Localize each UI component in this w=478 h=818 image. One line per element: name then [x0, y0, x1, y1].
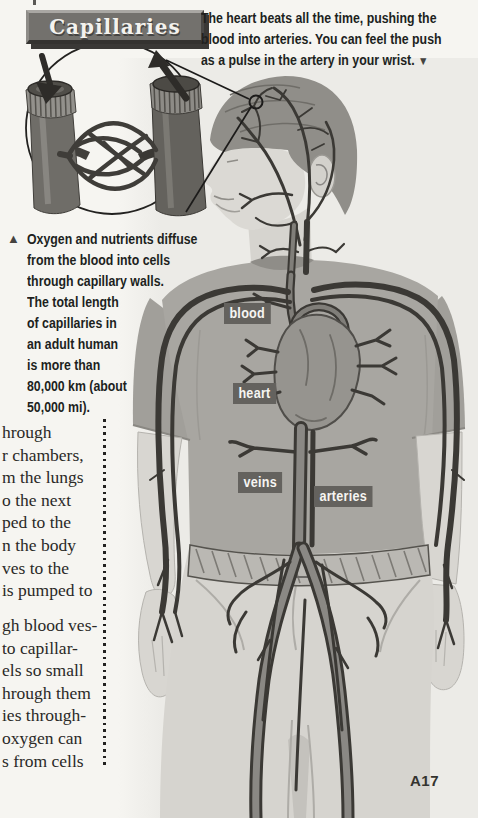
body-text-line: els so small: [2, 659, 97, 682]
capillaries-banner-label: Capillaries: [49, 15, 181, 39]
caption-line: through capillary walls.: [27, 271, 197, 292]
caption-line: as a pulse in the artery in your wrist. …: [201, 50, 442, 72]
cropped-text-remnant: [33, 0, 36, 5]
label-veins: veins: [238, 472, 282, 493]
label-heart: heart: [233, 383, 276, 404]
dotted-divider: [103, 419, 106, 766]
body-text-line: s from cells: [2, 750, 97, 773]
caption-line: an adult human: [27, 334, 197, 355]
body-text-paragraph-2: gh blood ves- to capillar- els so small …: [2, 614, 97, 772]
caption-line: The heart beats all the time, pushing th…: [201, 8, 442, 29]
body-text-line: ies through-: [2, 704, 97, 727]
label-arteries: arteries: [314, 486, 373, 507]
body-text-line: o the next: [2, 489, 92, 512]
body-text-line: n the body: [2, 534, 92, 557]
down-triangle-icon: ▼: [418, 54, 428, 68]
body-text-line: r chambers,: [2, 444, 92, 467]
caption-line: The total length: [27, 292, 197, 313]
body-text-paragraph-1: hrough r chambers, m the lungs o the nex…: [2, 421, 92, 602]
caption-line: 50,000 mi).: [27, 397, 197, 418]
body-text-line: is pumped to: [2, 579, 92, 602]
body-text-line: hrough: [2, 421, 92, 444]
heartbeat-caption: The heart beats all the time, pushing th…: [201, 8, 442, 72]
capillaries-banner: Capillaries: [26, 10, 204, 44]
up-triangle-icon: ▲: [7, 231, 20, 246]
textbook-page: Capillaries The heart beats all the time…: [0, 0, 478, 818]
caption-line: from the blood into cells: [27, 250, 197, 271]
body-text-line: to capillar-: [2, 637, 97, 660]
body-text-line: m the lungs: [2, 466, 92, 489]
caption-line: of capillaries in: [27, 313, 197, 334]
caption-line: 80,000 km (about: [27, 376, 197, 397]
capillary-caption: Oxygen and nutrients diffuse from the bl…: [27, 229, 197, 418]
caption-line: is more than: [27, 355, 197, 376]
body-text-line: ves to the: [2, 557, 92, 580]
caption-line: blood into arteries. You can feel the pu…: [201, 29, 442, 50]
caption-line: Oxygen and nutrients diffuse: [27, 229, 197, 250]
body-text-line: gh blood ves-: [2, 614, 97, 637]
body-text-line: hrough them: [2, 682, 97, 705]
label-blood: blood: [224, 303, 270, 324]
artery-vessel: [26, 81, 88, 214]
page-number: A17: [410, 772, 439, 789]
body-text-line: ped to the: [2, 511, 92, 534]
body-text-line: oxygen can: [2, 727, 97, 750]
